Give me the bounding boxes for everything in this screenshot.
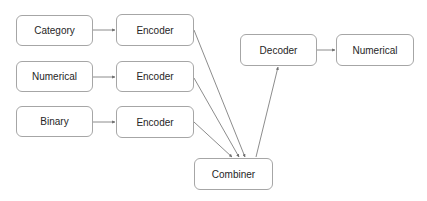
node-numerical-output: Numerical xyxy=(336,34,414,66)
edge-encoder2-to-combiner xyxy=(194,78,239,157)
edge-combiner-to-decoder xyxy=(256,67,278,157)
node-binary: Binary xyxy=(16,106,93,137)
edge-encoder3-to-combiner xyxy=(194,122,232,157)
node-encoder-1: Encoder xyxy=(116,14,194,46)
node-decoder: Decoder xyxy=(240,34,317,66)
node-encoder-2: Encoder xyxy=(116,61,194,92)
node-numerical-input: Numerical xyxy=(16,61,93,92)
node-combiner: Combiner xyxy=(194,158,273,190)
edge-encoder1-to-combiner xyxy=(194,30,245,157)
node-category: Category xyxy=(16,15,93,46)
node-encoder-3: Encoder xyxy=(116,106,194,138)
